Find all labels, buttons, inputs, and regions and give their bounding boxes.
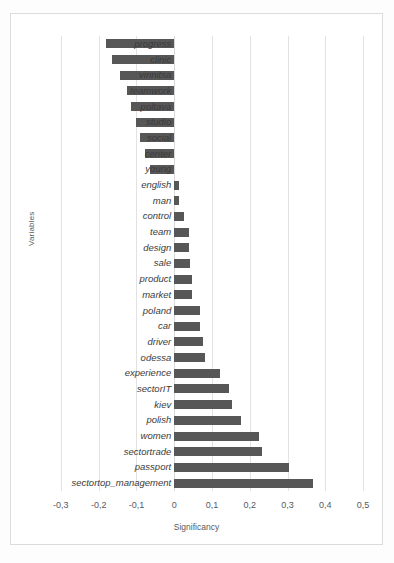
category-label: sectortop_management bbox=[71, 477, 171, 489]
bar bbox=[174, 447, 262, 456]
bar-row: vinnitsa bbox=[42, 67, 382, 83]
bar-row: team bbox=[42, 224, 382, 240]
chart-frame: Variables progressclinicvinnitsateamwork… bbox=[10, 13, 383, 545]
bar-row: driver bbox=[42, 334, 382, 350]
bar-row: sale bbox=[42, 256, 382, 272]
category-label: team bbox=[150, 226, 171, 238]
bar-row: teamwork bbox=[42, 83, 382, 99]
bar-row: poland bbox=[42, 303, 382, 319]
bar-row: young bbox=[42, 162, 382, 178]
bar-row: english bbox=[42, 177, 382, 193]
bar-row: poltava bbox=[42, 99, 382, 115]
bar bbox=[174, 384, 229, 393]
y-axis-label: Variables bbox=[27, 156, 36, 246]
x-tick-label: -0,3 bbox=[53, 500, 69, 510]
bar bbox=[174, 228, 188, 237]
category-label: control bbox=[143, 210, 172, 222]
chart-page: Variables progressclinicvinnitsateamwork… bbox=[0, 0, 394, 563]
bar bbox=[174, 400, 231, 409]
bar-row: progress bbox=[42, 36, 382, 52]
category-label: women bbox=[141, 430, 172, 442]
bar-row: control bbox=[42, 209, 382, 225]
category-label: sale bbox=[154, 257, 171, 269]
category-label: english bbox=[141, 179, 171, 191]
bar-row: experience bbox=[42, 365, 382, 381]
x-tick-label: 0,1 bbox=[206, 500, 219, 510]
bar bbox=[174, 337, 203, 346]
category-label: vinnitsa bbox=[139, 69, 171, 81]
bar-row: market bbox=[42, 287, 382, 303]
bar bbox=[174, 290, 191, 299]
bar-row: social bbox=[42, 130, 382, 146]
category-label: market bbox=[142, 289, 171, 301]
category-label: sectorIT bbox=[137, 383, 171, 395]
bar bbox=[174, 463, 289, 472]
bar-row: product bbox=[42, 271, 382, 287]
bar-row: kiev bbox=[42, 397, 382, 413]
bar bbox=[174, 196, 179, 205]
bar-row: man bbox=[42, 193, 382, 209]
x-tick-label: 0,2 bbox=[244, 500, 257, 510]
x-tick-label: 0 bbox=[172, 500, 177, 510]
bar-row: sectorIT bbox=[42, 381, 382, 397]
x-tick-label: 0,3 bbox=[281, 500, 294, 510]
bar-row: polish bbox=[42, 413, 382, 429]
category-label: man bbox=[153, 195, 171, 207]
category-label: studio bbox=[146, 116, 171, 128]
category-label: poltava bbox=[141, 101, 172, 113]
bar bbox=[174, 181, 179, 190]
category-label: experience bbox=[125, 367, 171, 379]
category-label: passport bbox=[135, 461, 171, 473]
x-tick-label: 0,4 bbox=[319, 500, 332, 510]
category-label: polish bbox=[146, 414, 171, 426]
bar bbox=[174, 416, 241, 425]
category-label: design bbox=[143, 242, 171, 254]
bar bbox=[174, 479, 313, 488]
x-tick-label: -0,2 bbox=[91, 500, 107, 510]
category-label: car bbox=[158, 320, 171, 332]
bar bbox=[174, 243, 189, 252]
bar bbox=[174, 432, 259, 441]
category-label: clinic bbox=[150, 54, 171, 66]
x-axis-label: Significancy bbox=[11, 522, 382, 532]
bar bbox=[174, 369, 219, 378]
category-label: social bbox=[147, 132, 171, 144]
bar-row: studio bbox=[42, 114, 382, 130]
category-label: progress bbox=[134, 38, 171, 50]
category-label: young bbox=[145, 163, 171, 175]
bar-row: design bbox=[42, 240, 382, 256]
category-label: driver bbox=[147, 336, 171, 348]
bar bbox=[174, 306, 199, 315]
bar bbox=[174, 259, 190, 268]
category-label: teamwork bbox=[130, 85, 171, 97]
x-axis-ticks: -0,3-0,2-0,100,10,20,30,40,5 bbox=[42, 500, 382, 516]
bar-row: women bbox=[42, 428, 382, 444]
category-label: odessa bbox=[141, 352, 172, 364]
bar-row: odessa bbox=[42, 350, 382, 366]
category-label: product bbox=[140, 273, 172, 285]
category-label: center bbox=[145, 148, 171, 160]
category-label: kiev bbox=[154, 399, 171, 411]
x-tick-label: 0,5 bbox=[357, 500, 370, 510]
bar bbox=[174, 275, 191, 284]
bar bbox=[174, 353, 205, 362]
category-label: poland bbox=[143, 305, 172, 317]
bar-row: sectortrade bbox=[42, 444, 382, 460]
bar-row: passport bbox=[42, 460, 382, 476]
bar bbox=[174, 212, 184, 221]
bar-row: sectortop_management bbox=[42, 475, 382, 491]
bar-row: center bbox=[42, 146, 382, 162]
bar-row: clinic bbox=[42, 52, 382, 68]
bar bbox=[174, 322, 200, 331]
x-tick-label: -0,1 bbox=[129, 500, 145, 510]
bar-row: car bbox=[42, 318, 382, 334]
plot-area: progressclinicvinnitsateamworkpoltavastu… bbox=[42, 36, 382, 491]
category-label: sectortrade bbox=[124, 446, 172, 458]
